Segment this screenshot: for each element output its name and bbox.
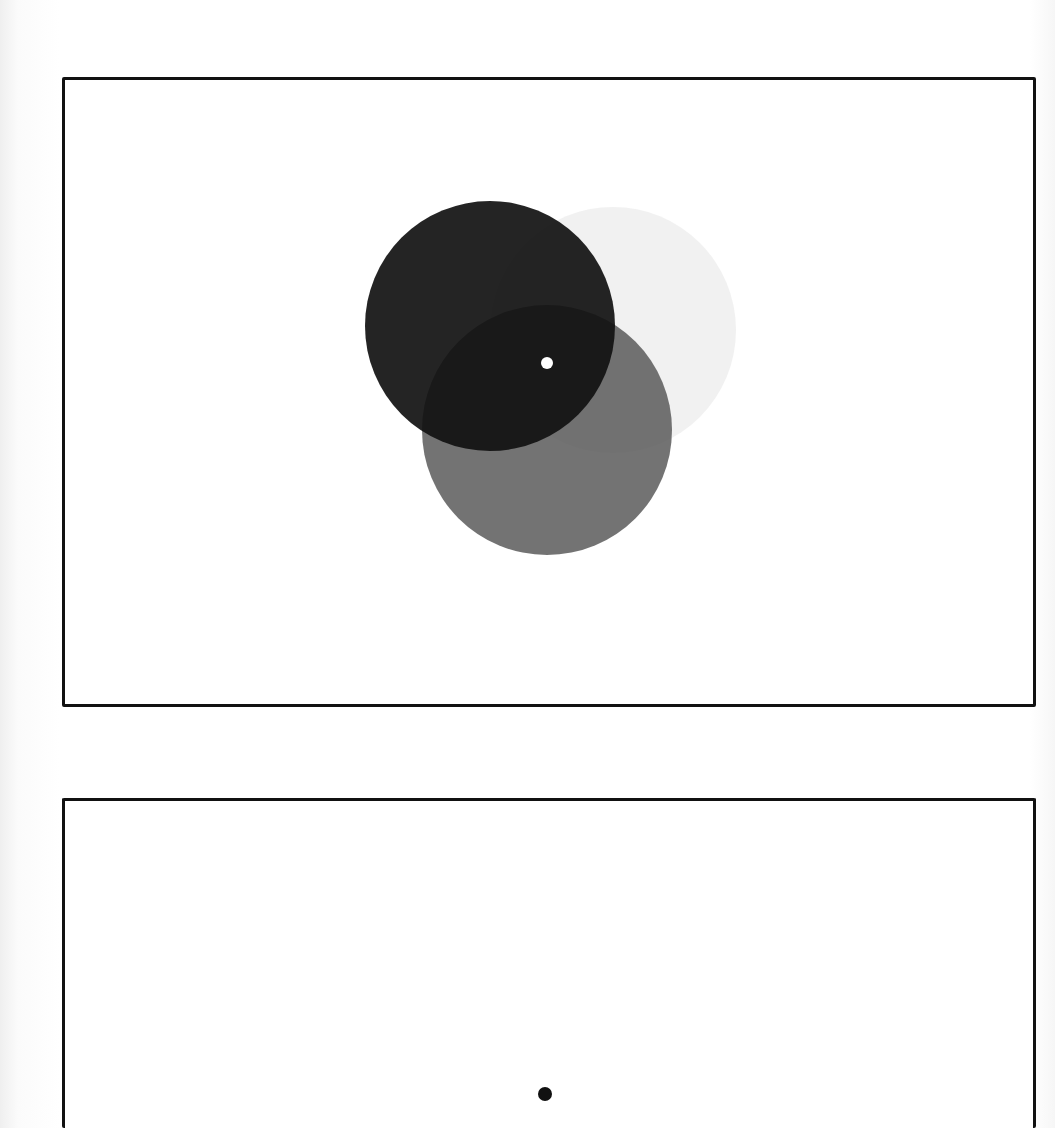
dark-disc: [365, 201, 615, 451]
black-fixation-dot: [538, 1087, 552, 1101]
white-fixation-dot: [541, 357, 553, 369]
overlapping-discs-group: [365, 201, 736, 555]
